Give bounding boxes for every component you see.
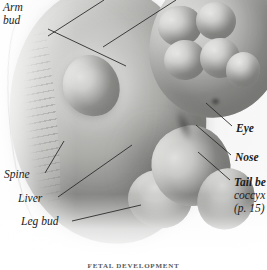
label-nose: Nose [235, 151, 259, 164]
bottom-edge-fade [0, 194, 267, 270]
embryo-illustration [0, 0, 267, 270]
figure-illustration-panel: Arm bud Spine Liver Leg bud Eye Nose Tai… [0, 0, 267, 270]
label-spine: Spine [4, 168, 30, 181]
label-arm-bud-line2: bud [3, 14, 23, 27]
label-arm-bud-line1: Arm [3, 1, 23, 14]
label-eye: Eye [236, 122, 254, 135]
label-tail: Tail be coccyx (p. 15) [234, 176, 266, 215]
label-arm-bud: Arm bud [3, 1, 23, 27]
label-tail-line2: coccyx [234, 189, 266, 202]
label-leg-bud: Leg bud [21, 215, 58, 228]
label-tail-line1: Tail be [234, 176, 266, 189]
figure-caption: FETAL DEVELOPMENT [0, 262, 267, 270]
eye-shape [209, 96, 222, 107]
label-liver: Liver [18, 192, 42, 205]
label-tail-line3: (p. 15) [234, 202, 266, 215]
